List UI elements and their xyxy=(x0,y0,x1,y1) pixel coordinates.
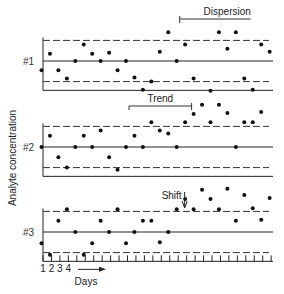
data-point xyxy=(65,166,69,170)
data-point xyxy=(65,207,69,211)
x-tick-label: 4 xyxy=(66,263,72,274)
data-point xyxy=(183,120,187,124)
data-point xyxy=(82,43,86,47)
data-point xyxy=(73,145,77,149)
data-point xyxy=(99,219,103,223)
panel-label: #3 xyxy=(23,227,35,238)
data-point xyxy=(107,155,111,159)
annotation-label: Trend xyxy=(147,93,173,104)
data-point xyxy=(209,197,213,201)
data-point xyxy=(141,145,145,149)
data-point xyxy=(192,77,196,81)
control-chart: Analyte concentration #1Dispersion#2Tren… xyxy=(0,0,284,294)
data-point xyxy=(141,88,145,92)
data-point xyxy=(149,219,153,223)
panel-label: #2 xyxy=(23,142,35,153)
x-tick-label: 1 xyxy=(40,263,46,274)
data-point xyxy=(73,59,77,63)
data-point xyxy=(242,120,246,124)
data-point xyxy=(124,241,128,245)
data-point xyxy=(259,110,263,114)
data-point xyxy=(175,59,179,63)
data-point xyxy=(48,134,52,138)
x-tick-label: 2 xyxy=(49,263,55,274)
data-point xyxy=(158,240,162,244)
data-point xyxy=(242,193,246,197)
data-point xyxy=(56,219,60,223)
panel-3: #3Shift xyxy=(23,187,273,262)
data-point xyxy=(40,145,44,149)
data-point xyxy=(209,89,213,93)
data-point xyxy=(124,59,128,63)
data-point xyxy=(149,120,153,124)
data-point xyxy=(234,219,238,223)
data-point xyxy=(116,168,120,172)
data-point xyxy=(90,241,94,245)
data-point xyxy=(166,132,170,136)
data-point xyxy=(251,120,255,124)
x-axis-label: Days xyxy=(75,276,98,287)
panel-2: #2Trend xyxy=(23,93,273,176)
data-point xyxy=(175,207,179,211)
data-point xyxy=(259,43,263,47)
data-point xyxy=(65,77,69,81)
data-point xyxy=(90,145,94,149)
data-point xyxy=(200,188,204,192)
data-point xyxy=(99,129,103,133)
data-point xyxy=(132,230,136,234)
panel-label: #1 xyxy=(23,56,35,67)
data-point xyxy=(217,103,221,107)
data-point xyxy=(82,134,86,138)
data-point xyxy=(166,30,170,34)
data-point xyxy=(217,30,221,34)
data-point xyxy=(132,75,136,79)
data-point xyxy=(73,230,77,234)
data-point xyxy=(183,43,187,47)
data-point xyxy=(225,111,229,115)
annotation-label: Dispersion xyxy=(204,6,251,17)
data-point xyxy=(225,47,229,51)
data-point xyxy=(268,50,272,54)
data-point xyxy=(56,155,60,159)
data-point xyxy=(200,103,204,107)
annotation-label: Shift xyxy=(162,190,182,201)
data-point xyxy=(56,68,60,72)
data-point xyxy=(251,206,255,210)
data-point xyxy=(242,77,246,81)
data-point xyxy=(175,145,179,149)
data-point xyxy=(107,230,111,234)
data-point xyxy=(259,218,263,222)
data-point xyxy=(116,68,120,72)
data-point xyxy=(124,145,128,149)
data-point xyxy=(217,207,221,211)
data-point xyxy=(268,196,272,200)
y-axis-label: Analyte concentration xyxy=(7,110,18,206)
data-point xyxy=(158,50,162,54)
x-tick-label: 3 xyxy=(57,263,63,274)
days-arrow-head xyxy=(99,267,106,272)
data-point xyxy=(48,52,52,56)
data-point xyxy=(166,230,170,234)
data-point xyxy=(141,219,145,223)
data-point xyxy=(132,134,136,138)
data-point xyxy=(40,68,44,72)
data-point xyxy=(192,207,196,211)
data-point xyxy=(251,88,255,92)
data-point xyxy=(209,120,213,124)
data-point xyxy=(90,52,94,56)
data-point xyxy=(40,241,44,245)
data-point xyxy=(149,80,153,84)
data-point xyxy=(158,129,162,133)
data-point xyxy=(192,112,196,116)
data-point xyxy=(234,30,238,34)
data-point xyxy=(107,51,111,55)
panel-1: #1Dispersion xyxy=(23,6,273,93)
data-point xyxy=(116,207,120,211)
data-point xyxy=(225,187,229,191)
data-point xyxy=(234,145,238,149)
data-point xyxy=(99,59,103,63)
